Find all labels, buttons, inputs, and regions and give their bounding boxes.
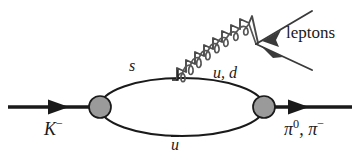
- label-incoming-kaon: K−: [44, 118, 63, 138]
- label-kaon-charge: −: [56, 117, 63, 131]
- antiquark-overbar: [171, 136, 178, 137]
- label-quark-s: s: [129, 58, 135, 74]
- right-vertex-blob: [253, 96, 275, 118]
- label-outgoing-pions: π0, π−: [284, 118, 324, 138]
- lepton-lower-arrowhead: [261, 46, 283, 58]
- label-pionminus-charge: −: [317, 117, 324, 131]
- outgoing-pion-arrowhead: [288, 100, 309, 115]
- incoming-kaon-arrowhead: [48, 100, 69, 115]
- label-pion-separator: ,: [299, 119, 308, 139]
- label-quark-u-d: u, d: [213, 65, 237, 81]
- quark-loop-ellipse: [100, 78, 264, 136]
- feynman-diagram-figure: K− π0, π− s u, d u leptons: [0, 0, 359, 161]
- label-leptons: leptons: [286, 24, 335, 41]
- label-quark-ubar: u: [171, 137, 179, 153]
- left-vertex-blob: [89, 96, 111, 118]
